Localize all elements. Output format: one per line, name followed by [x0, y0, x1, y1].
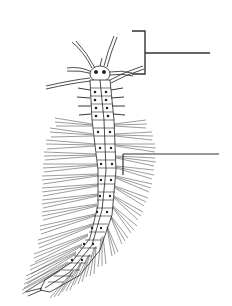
- tail-cirri: [26, 288, 42, 296]
- chaetae-bristles: [22, 118, 156, 298]
- worm-illustration: [22, 36, 156, 298]
- head-pointer: [132, 31, 210, 74]
- worm-diagram: [0, 0, 232, 306]
